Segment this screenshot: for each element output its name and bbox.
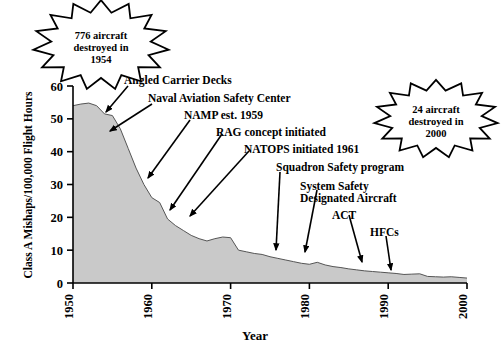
y-tick-label: 40 bbox=[51, 145, 64, 159]
arrow-namp-est-1959 bbox=[148, 120, 190, 178]
x-tick-label: 1990 bbox=[377, 294, 391, 319]
arrow-angled-carrier-decks bbox=[106, 86, 128, 112]
y-axis-tick-labels: 0102030405060 bbox=[51, 80, 64, 291]
label-rag-concept-initiated: RAG concept initiated bbox=[216, 126, 326, 139]
y-tick-label: 0 bbox=[57, 277, 63, 291]
callout-right-line1: 24 aircraft bbox=[412, 104, 460, 115]
mishap-rate-area-chart: 0102030405060 195019601970198019902000 C… bbox=[0, 0, 503, 349]
label-naval-aviation-safety-center: Naval Aviation Safety Center bbox=[148, 92, 291, 105]
label-natops-initiated-1961: NATOPS initiated 1961 bbox=[244, 143, 359, 155]
callout-right-line3: 2000 bbox=[426, 128, 447, 139]
x-axis-tick-labels: 195019601970198019902000 bbox=[62, 294, 470, 319]
x-tick-label: 2000 bbox=[456, 294, 470, 319]
chart-figure: 0102030405060 195019601970198019902000 C… bbox=[0, 0, 503, 349]
label-namp-est-1959: NAMP est. 1959 bbox=[184, 109, 263, 121]
arrow-natops-initiated-1961 bbox=[190, 151, 249, 216]
y-tick-label: 30 bbox=[51, 178, 64, 192]
y-axis-title: Class A Mishaps/100,000 Flight Hours bbox=[22, 91, 35, 278]
y-tick-label: 50 bbox=[51, 112, 64, 126]
label-hfcs: HFCs bbox=[370, 226, 399, 238]
callout-left-line1: 776 aircraft bbox=[75, 30, 128, 41]
label-squadron-safety-program: Squadron Safety program bbox=[276, 161, 404, 174]
x-tick-label: 1980 bbox=[298, 294, 312, 319]
y-axis-ticks bbox=[67, 86, 73, 283]
arrow-squadron-safety-program bbox=[276, 172, 280, 250]
y-tick-label: 20 bbox=[51, 211, 64, 225]
x-tick-label: 1960 bbox=[141, 294, 155, 319]
x-tick-label: 1970 bbox=[220, 294, 234, 319]
label-act: ACT bbox=[332, 209, 357, 221]
callout-right-line2: destroyed in bbox=[409, 116, 464, 127]
arrow-naval-aviation-safety-center bbox=[110, 104, 152, 131]
callout-right-24-aircraft: 24 aircraft destroyed in 2000 bbox=[374, 80, 497, 157]
arrow-act bbox=[349, 215, 362, 262]
y-tick-label: 10 bbox=[51, 244, 64, 258]
x-axis-title: Year bbox=[242, 328, 268, 343]
annotation-labels: Angled Carrier Decks Naval Aviation Safe… bbox=[124, 74, 404, 238]
x-axis-ticks bbox=[73, 283, 467, 289]
callout-left-line3: 1954 bbox=[91, 54, 113, 65]
arrow-rag-concept-initiated bbox=[170, 134, 222, 210]
callout-left-line2: destroyed in bbox=[74, 42, 129, 53]
arrow-hfcs bbox=[386, 236, 391, 270]
x-tick-label: 1950 bbox=[62, 294, 76, 319]
label-system-safety-line2: Designated Aircraft bbox=[300, 192, 397, 205]
